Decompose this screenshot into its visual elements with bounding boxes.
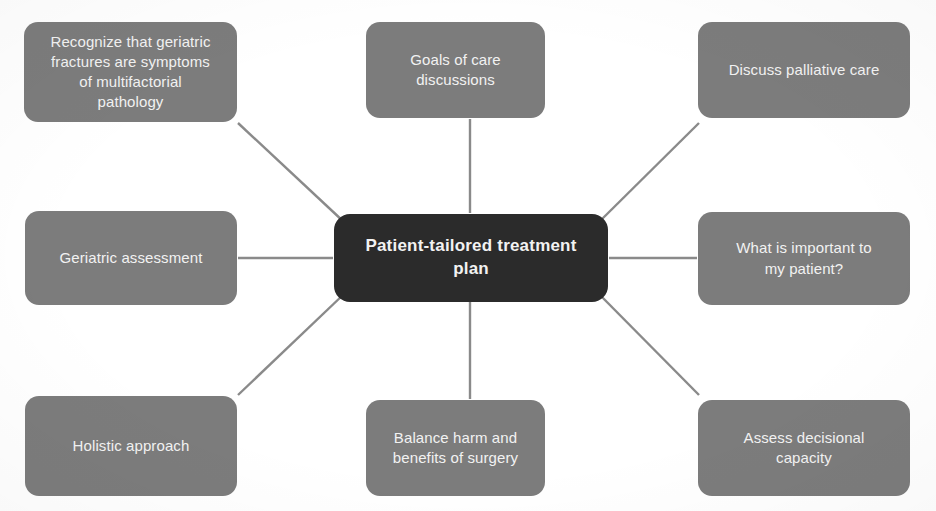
edge-center-to-top-left <box>238 123 344 222</box>
edge-center-to-bottom-right <box>599 294 699 395</box>
edge-center-to-top-right <box>599 123 699 222</box>
node-what-is-important-label: What is important to my patient? <box>712 238 896 278</box>
node-geriatric-assessment-label: Geriatric assessment <box>39 248 223 268</box>
node-holistic-approach[interactable]: Holistic approach <box>25 396 237 496</box>
node-goals-of-care-label: Goals of care discussions <box>380 50 531 90</box>
node-what-is-important[interactable]: What is important to my patient? <box>698 212 910 305</box>
node-recognize-geriatric-fractures-label: Recognize that geriatric fractures are s… <box>38 32 223 112</box>
node-balance-harm-benefits[interactable]: Balance harm and benefits of surgery <box>366 400 545 496</box>
node-recognize-geriatric-fractures[interactable]: Recognize that geriatric fractures are s… <box>24 22 237 122</box>
center[interactable]: Patient-tailored treatment plan <box>334 214 608 302</box>
node-goals-of-care[interactable]: Goals of care discussions <box>366 22 545 118</box>
node-palliative-care[interactable]: Discuss palliative care <box>698 22 910 118</box>
node-decisional-capacity[interactable]: Assess decisional capacity <box>698 400 910 496</box>
node-balance-harm-benefits-label: Balance harm and benefits of surgery <box>380 428 531 468</box>
node-geriatric-assessment[interactable]: Geriatric assessment <box>25 211 237 305</box>
node-holistic-approach-label: Holistic approach <box>39 436 223 456</box>
node-palliative-care-label: Discuss palliative care <box>712 60 896 80</box>
diagram-canvas: Recognize that geriatric fractures are s… <box>0 0 936 511</box>
center-label: Patient-tailored treatment plan <box>348 235 594 281</box>
node-decisional-capacity-label: Assess decisional capacity <box>712 428 896 468</box>
edge-center-to-bottom-left <box>238 294 344 395</box>
